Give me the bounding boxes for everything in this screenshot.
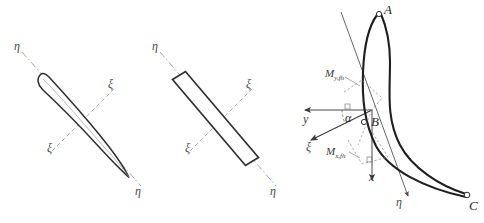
- rect-eta-label-lower: η: [270, 185, 276, 197]
- rect-xi-label-lower: ξ: [185, 142, 190, 154]
- moment-y-subscript: y,fh: [334, 74, 344, 82]
- rect-xi-label-upper: ξ: [246, 78, 251, 90]
- moment-y-label: My,fh: [325, 68, 344, 82]
- blade-pressure-side: [363, 15, 466, 197]
- blade-point-b-label: B: [371, 115, 379, 128]
- blade-x-axis-label: x: [369, 171, 374, 183]
- point-b-marker: [361, 119, 366, 124]
- moment-y-right-angle: [345, 104, 350, 109]
- panel-rectangular-section: [160, 52, 276, 186]
- blade-point-c-label: C: [469, 199, 478, 212]
- panel-blade-moment-diagram: [305, 11, 470, 197]
- airfoil-xi-label-upper: ξ: [108, 78, 113, 90]
- blade-xi-axis: [311, 110, 372, 140]
- moment-x-label: Mx,fh: [326, 146, 345, 160]
- blade-point-a-label: A: [384, 3, 392, 16]
- technical-figure: η η ξ ξ η η ξ ξ A B C y x ξ η α My,fh Mx…: [0, 0, 484, 223]
- moment-y-symbol: M: [325, 67, 334, 79]
- moment-y-leader: [345, 77, 360, 86]
- blade-y-axis-label: y: [303, 113, 308, 125]
- moment-x-symbol: M: [326, 145, 335, 157]
- rect-eta-label-upper: η: [152, 40, 158, 52]
- point-c-marker: [464, 192, 470, 198]
- blade-xi-axis-label: ξ: [306, 141, 311, 153]
- panel-airfoil-section: [22, 52, 141, 186]
- airfoil-eta-label-upper: η: [14, 40, 20, 52]
- airfoil-outline: [38, 73, 129, 177]
- figure-vector-layer: [0, 0, 484, 223]
- moment-x-subscript: x,fh: [335, 152, 345, 160]
- blade-angle-alpha-label: α: [345, 112, 351, 124]
- blade-eta-axis-label: η: [396, 196, 402, 208]
- airfoil-eta-label-lower: η: [135, 185, 141, 197]
- point-a-marker: [376, 11, 381, 16]
- moment-x-construction: [348, 132, 388, 164]
- airfoil-xi-label-lower: ξ: [47, 142, 52, 154]
- moment-x-leader: [349, 152, 360, 158]
